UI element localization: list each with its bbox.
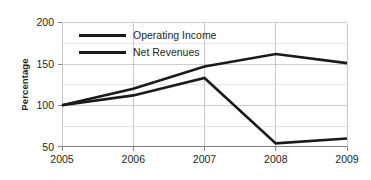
- y-tick-label-200: 200: [36, 16, 54, 28]
- y-tick-label-150: 150: [36, 58, 54, 70]
- x-tick-label-2008: 2008: [264, 153, 288, 165]
- chart-container: 200 150 100 50 Percentage 2005 2006 2007…: [0, 0, 371, 180]
- line-chart: 200 150 100 50 Percentage 2005 2006 2007…: [0, 0, 371, 180]
- y-tick-label-50: 50: [42, 141, 54, 153]
- x-tick-label-2005: 2005: [50, 153, 74, 165]
- x-tick-label-2009: 2009: [335, 153, 359, 165]
- x-tick-label-2006: 2006: [122, 153, 146, 165]
- y-tick-label-100: 100: [36, 99, 54, 111]
- legend-label-operating-income: Operating Income: [133, 29, 217, 41]
- y-axis-title: Percentage: [19, 58, 30, 110]
- legend-label-net-revenues: Net Revenues: [133, 46, 200, 58]
- x-tick-label-2007: 2007: [193, 153, 217, 165]
